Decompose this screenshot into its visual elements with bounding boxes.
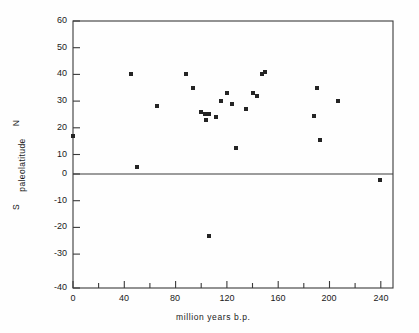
data-point [204, 118, 208, 122]
data-point [219, 99, 223, 103]
data-point [129, 72, 133, 76]
plot-frame-rect [73, 21, 393, 288]
y-axis-label-main: paleolatitude [17, 132, 27, 198]
data-point [230, 102, 234, 106]
data-point [315, 86, 319, 90]
x-axis-ticks [73, 281, 381, 288]
y-tick-label: -10 [54, 195, 67, 205]
x-tick-label: 40 [114, 293, 134, 303]
x-tick-label: 160 [268, 293, 288, 303]
y-tick-label: 0 [62, 168, 67, 178]
y-axis-label-south: S [11, 199, 21, 215]
data-point [207, 112, 211, 116]
x-axis-label: million years b.p. [176, 312, 251, 322]
data-point [234, 146, 238, 150]
data-point [263, 70, 267, 74]
y-tick-label: 60 [57, 15, 67, 25]
data-point [255, 94, 259, 98]
data-point [191, 86, 195, 90]
data-point [378, 178, 382, 182]
x-tick-label: 120 [217, 293, 237, 303]
data-point [155, 104, 159, 108]
y-tick-label: -40 [54, 282, 67, 292]
y-axis-ticks [73, 21, 80, 288]
data-point [135, 165, 139, 169]
data-point [71, 134, 75, 138]
data-point [207, 234, 211, 238]
scatter-plot-figure: 60 50 40 30 20 10 0 -10 -20 -30 -40 0 40… [0, 0, 419, 333]
y-axis-label-north: N [11, 115, 21, 131]
y-tick-label: -20 [54, 221, 67, 231]
data-point [336, 99, 340, 103]
y-tick-label: 50 [57, 42, 67, 52]
x-tick-label: 80 [165, 293, 185, 303]
x-tick-label: 240 [371, 293, 391, 303]
y-tick-label: -30 [54, 248, 67, 258]
data-point [225, 91, 229, 95]
data-point [184, 72, 188, 76]
x-tick-label: 0 [63, 293, 83, 303]
data-point [312, 114, 316, 118]
y-tick-label: 40 [57, 68, 67, 78]
data-point [244, 107, 248, 111]
y-tick-label: 30 [57, 95, 67, 105]
x-tick-label: 200 [319, 293, 339, 303]
y-tick-label: 20 [57, 122, 67, 132]
data-point [214, 115, 218, 119]
data-point [318, 138, 322, 142]
y-tick-label: 10 [57, 149, 67, 159]
